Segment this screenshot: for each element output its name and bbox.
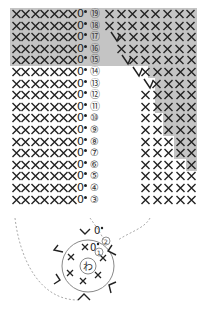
- dashed-connector-right: [118, 218, 150, 240]
- round1-slip: [97, 243, 99, 245]
- svg-text:2: 2: [104, 238, 108, 245]
- round2-slip: [101, 227, 103, 229]
- ring-and-connectors: わ 0 1 0 2: [0, 0, 208, 315]
- magic-ring-label: わ: [83, 261, 93, 272]
- round2-chain: 0: [94, 225, 100, 236]
- svg-text:1: 1: [97, 249, 101, 256]
